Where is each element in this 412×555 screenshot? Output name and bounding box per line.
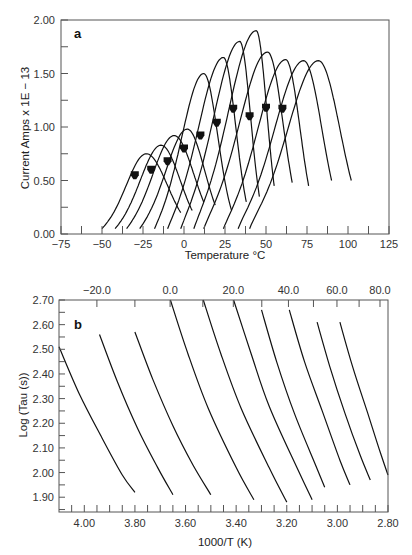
x-tick-label: 3.20 [276, 517, 297, 529]
y-tick-label: 2.40 [33, 368, 54, 380]
x-tick-label: 2.80 [377, 517, 398, 529]
y-tick-label: 1.00 [34, 121, 55, 133]
y-tick-label: 2.70 [33, 294, 54, 306]
chart-a-x-axis-title: Temperature °C [185, 249, 266, 261]
y-tick-label: 2.10 [33, 442, 54, 454]
y-tick-label: 2.00 [33, 467, 54, 479]
relaxation-time-curve [340, 322, 388, 475]
down-arrow-marker-icon [229, 105, 237, 113]
top-x-tick-label: −20.0 [83, 284, 111, 296]
y-tick-label: 2.50 [33, 343, 54, 355]
chart-b-x-axis-title: 1000/T (K) [198, 536, 252, 548]
x-tick-label: 75 [301, 238, 313, 250]
chart-b-y-axis-title: Log (Tau (s)) [17, 372, 29, 437]
current-peak-curve [223, 60, 308, 229]
down-arrow-marker-icon [213, 119, 221, 127]
relaxation-time-curve [135, 332, 211, 495]
x-tick-label: 3.40 [225, 517, 246, 529]
down-arrow-marker-icon [246, 112, 254, 120]
y-tick-label: 2.00 [34, 14, 55, 26]
down-arrow-marker-icon [180, 144, 188, 152]
top-x-tick-label: 0.0 [162, 284, 177, 296]
x-tick-label: 3.60 [175, 517, 196, 529]
relaxation-time-curve [262, 310, 325, 487]
relaxation-time-curve [203, 300, 286, 502]
y-tick-label: 2.60 [33, 319, 54, 331]
top-x-tick-label: 60.0 [326, 284, 347, 296]
x-tick-label: 4.00 [74, 517, 95, 529]
relaxation-time-curve [100, 335, 173, 495]
x-tick-label: −25 [134, 238, 153, 250]
chart-b-frame [59, 300, 388, 512]
y-tick-label: 0.00 [34, 228, 55, 240]
x-tick-label: 100 [339, 238, 357, 250]
current-peak-curve [127, 136, 204, 229]
top-x-tick-label: 80.0 [369, 284, 390, 296]
current-peak-curve [204, 52, 293, 229]
chart-b-axes: 4.003.803.603.403.203.002.80−20.00.020.0… [33, 284, 399, 529]
current-peak-curve [238, 61, 332, 229]
relaxation-time-curve [234, 300, 313, 500]
y-tick-label: 2.20 [33, 417, 54, 429]
relaxation-time-curve [59, 347, 135, 493]
chart-a-y-axis-title: Current Amps x 1E − 13 [19, 67, 31, 189]
current-peak-curve [194, 31, 274, 229]
y-tick-label: 2.30 [33, 393, 54, 405]
top-x-tick-label: 40.0 [278, 284, 299, 296]
panel-label-a: a [74, 26, 82, 41]
chart-a-axes: −75−50−2502550751001250.000.501.001.502.… [34, 14, 399, 250]
y-tick-label: 1.50 [34, 68, 55, 80]
chart-a-current-vs-temperature: −75−50−2502550751001250.000.501.001.502.… [0, 0, 412, 275]
x-tick-label: 125 [380, 238, 398, 250]
down-arrow-marker-icon [164, 157, 172, 165]
relaxation-time-curve [317, 322, 370, 480]
x-tick-label: 3.00 [327, 517, 348, 529]
top-x-tick-label: 20.0 [223, 284, 244, 296]
x-tick-label: −50 [93, 238, 112, 250]
relaxation-time-curve [170, 300, 254, 500]
down-arrow-marker-icon [131, 171, 139, 179]
down-arrow-marker-icon [196, 132, 204, 140]
figure: −75−50−2502550751001250.000.501.001.502.… [0, 0, 412, 555]
panel-label-b: b [74, 317, 82, 332]
chart-a-curves [102, 31, 351, 229]
chart-b-curves [59, 300, 388, 502]
y-tick-label: 1.90 [33, 491, 54, 503]
x-tick-label: 3.80 [124, 517, 145, 529]
y-tick-label: 0.50 [34, 175, 55, 187]
current-peak-curve [181, 41, 260, 228]
relaxation-time-curve [289, 310, 350, 485]
